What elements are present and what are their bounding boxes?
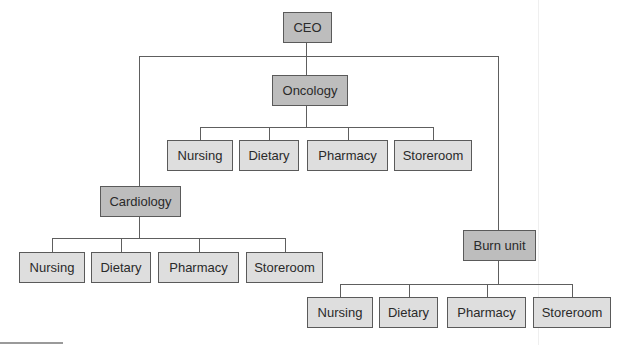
connector-oncology-child-2 [348, 127, 349, 140]
node-burn-unit-storeroom-label: Storeroom [542, 305, 603, 320]
node-burn-unit-label: Burn unit [473, 238, 525, 253]
node-burn-unit-pharmacy: Pharmacy [447, 297, 526, 328]
connector-ceo-trunk [306, 43, 307, 57]
node-burn-unit-storeroom: Storeroom [533, 297, 611, 328]
node-oncology-dietary: Dietary [239, 140, 299, 171]
connector-cardiology-child-1 [121, 238, 122, 252]
node-oncology-storeroom-label: Storeroom [403, 148, 464, 163]
node-ceo: CEO [283, 12, 332, 43]
node-oncology-pharmacy: Pharmacy [307, 140, 388, 171]
node-burn-unit-nursing: Nursing [307, 297, 373, 328]
node-oncology-nursing-label: Nursing [178, 148, 223, 163]
node-ceo-label: CEO [293, 20, 321, 35]
node-burn-unit-dietary: Dietary [379, 297, 438, 328]
node-oncology: Oncology [272, 75, 348, 106]
node-oncology-nursing: Nursing [167, 140, 233, 171]
node-burn-unit: Burn unit [463, 230, 536, 261]
node-cardiology: Cardiology [100, 186, 181, 217]
node-cardiology-label: Cardiology [109, 194, 171, 209]
connector-oncology-child-1 [269, 127, 270, 140]
connector-to-oncology [306, 56, 307, 75]
node-burn-unit-pharmacy-label: Pharmacy [457, 305, 516, 320]
connector-oncology-bar [200, 127, 434, 128]
connector-cardiology-bar [52, 238, 286, 239]
connector-to-cardiology [139, 56, 140, 186]
node-oncology-label: Oncology [283, 83, 338, 98]
node-cardiology-storeroom-label: Storeroom [254, 260, 315, 275]
connector-burn-unit-child-3 [572, 284, 573, 297]
node-cardiology-nursing: Nursing [19, 252, 85, 283]
connector-cardiology-child-0 [52, 238, 53, 252]
node-cardiology-pharmacy-label: Pharmacy [169, 260, 228, 275]
footer-bar [0, 342, 63, 344]
connector-oncology-trunk [306, 106, 307, 127]
connector-burn-unit-bar [340, 284, 573, 285]
connector-cardiology-child-3 [285, 238, 286, 252]
node-cardiology-dietary: Dietary [91, 252, 151, 283]
node-oncology-dietary-label: Dietary [248, 148, 289, 163]
node-cardiology-nursing-label: Nursing [30, 260, 75, 275]
node-cardiology-storeroom: Storeroom [246, 252, 323, 283]
connector-burn-unit-child-2 [487, 284, 488, 297]
connector-oncology-child-3 [433, 127, 434, 140]
connector-burn-unit-trunk [498, 261, 499, 284]
connector-to-burn-unit [498, 56, 499, 230]
node-cardiology-dietary-label: Dietary [100, 260, 141, 275]
node-cardiology-pharmacy: Pharmacy [158, 252, 239, 283]
connector-burn-unit-child-1 [409, 284, 410, 297]
node-burn-unit-dietary-label: Dietary [388, 305, 429, 320]
connector-ceo-bar [139, 56, 499, 57]
connector-cardiology-trunk [139, 217, 140, 238]
connector-burn-unit-child-0 [340, 284, 341, 297]
connector-cardiology-child-2 [199, 238, 200, 252]
node-oncology-pharmacy-label: Pharmacy [318, 148, 377, 163]
node-oncology-storeroom: Storeroom [394, 140, 472, 171]
connector-oncology-child-0 [200, 127, 201, 140]
node-burn-unit-nursing-label: Nursing [318, 305, 363, 320]
org-chart: CEOOncologyNursingDietaryPharmacyStorero… [0, 0, 627, 345]
page-seam [538, 0, 539, 345]
